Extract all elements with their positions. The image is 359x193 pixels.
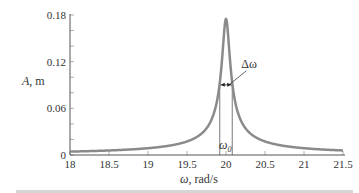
x-tick-label: 19 — [143, 158, 155, 170]
y-tick-label: 0.18 — [47, 9, 67, 21]
x-axis-label: ω, rad/s — [180, 172, 218, 186]
y-tick-label: 0.06 — [47, 102, 67, 114]
delta-omega-annotation: Δω — [221, 57, 257, 87]
x-tick-label: 18.5 — [99, 158, 119, 170]
x-axis-ticks: 1818.51919.52020.52121.5 — [65, 151, 354, 170]
omega0-label: ω0 — [219, 138, 231, 154]
x-tick-label: 19.5 — [177, 158, 197, 170]
x-tick-label: 20.5 — [255, 158, 275, 170]
y-tick-label: 0.12 — [47, 56, 66, 68]
delta-omega-label: Δω — [241, 57, 257, 71]
x-tick-label: 21.5 — [333, 158, 353, 170]
bottom-divider — [16, 190, 353, 193]
x-tick-label: 20 — [221, 158, 233, 170]
x-tick-label: 21 — [299, 158, 310, 170]
x-tick-label: 18 — [65, 158, 77, 170]
resonance-curve — [70, 19, 343, 152]
resonance-chart: 00.060.120.18 1818.51919.52020.52121.5 Δ… — [0, 0, 359, 193]
y-axis-label: A, m — [21, 74, 45, 88]
